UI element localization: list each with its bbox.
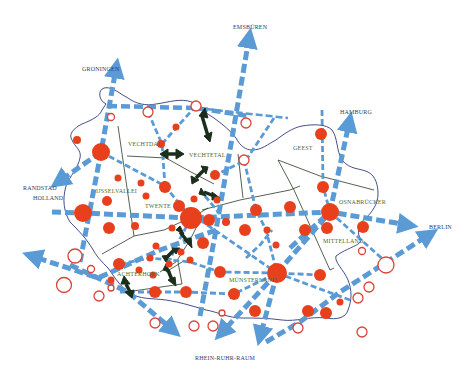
label-twente: Twente bbox=[145, 203, 171, 209]
label-berlin: Berlin bbox=[429, 224, 452, 230]
label-mittelland: Mittelland bbox=[323, 238, 364, 244]
node-hub bbox=[92, 143, 110, 161]
label-emsbueren: Emsbüren bbox=[233, 24, 267, 30]
label-rhein-ruhr: Rhein-Ruhr-Raum bbox=[195, 355, 255, 361]
network-map bbox=[0, 0, 471, 380]
label-holland: Holland bbox=[33, 195, 63, 201]
label-ijsselvallei: IJsselvallei bbox=[96, 188, 137, 194]
label-vechtetal: Vechtetal bbox=[189, 152, 226, 158]
double-arrow-icon bbox=[199, 108, 212, 142]
corridor-berlin-south bbox=[266, 238, 424, 342]
label-vechtdal: Vechtdal bbox=[128, 141, 162, 147]
label-hamburg: Hamburg bbox=[340, 109, 372, 115]
node-hub bbox=[321, 203, 339, 221]
node-hub bbox=[180, 207, 202, 229]
label-muensterland: Münsterland bbox=[229, 277, 277, 283]
label-geest: Geest bbox=[293, 145, 313, 151]
label-randstad: Randstad bbox=[23, 185, 57, 191]
label-osnabruecker: Osnabrücker bbox=[339, 199, 386, 205]
node-hub bbox=[74, 204, 92, 222]
double-arrow-icon bbox=[191, 166, 208, 184]
label-achterhoek: Achterhoek bbox=[117, 271, 160, 277]
label-groningen: Groningen bbox=[82, 66, 119, 72]
